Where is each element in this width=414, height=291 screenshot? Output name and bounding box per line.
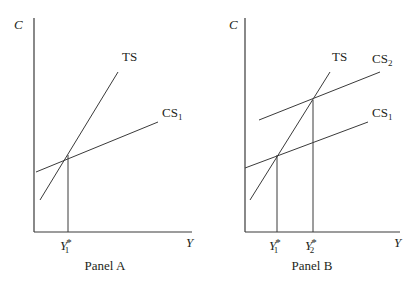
y-axis-label: C bbox=[229, 18, 238, 31]
panel-b: C Y TS CS2 CS1 Y*1 Y*2 Panel B bbox=[210, 0, 414, 291]
curve-label-ts: TS bbox=[332, 50, 347, 63]
curve-label-cs1-subscript: 1 bbox=[178, 112, 183, 122]
curve-label-cs2-subscript: 2 bbox=[388, 58, 393, 68]
curve-label-cs2-text: CS bbox=[372, 51, 388, 66]
curve-label-cs1-text: CS bbox=[162, 105, 178, 120]
curve-cs1 bbox=[36, 122, 158, 172]
tick-label-y1-subscript: 1 bbox=[274, 245, 279, 255]
y-axis-label: C bbox=[14, 18, 23, 31]
panel-a-caption: Panel A bbox=[0, 259, 210, 272]
economics-figure: C Y TS CS1 Y*1 Panel A C Y TS CS2 bbox=[0, 0, 414, 291]
curve-ts bbox=[250, 72, 330, 200]
curve-label-cs1: CS1 bbox=[162, 106, 182, 119]
curve-label-cs2: CS2 bbox=[372, 52, 392, 65]
curve-label-cs1: CS1 bbox=[372, 106, 392, 119]
curve-ts bbox=[40, 72, 118, 200]
tick-label-y1: Y*1 bbox=[60, 236, 77, 252]
tick-label-y2: Y*2 bbox=[305, 236, 322, 252]
panel-a-plot bbox=[0, 0, 210, 291]
panel-b-caption: Panel B bbox=[210, 259, 414, 272]
tick-label-y2-subscript: 2 bbox=[310, 245, 315, 255]
tick-label-y1-subscript: 1 bbox=[65, 245, 70, 255]
curve-label-ts: TS bbox=[122, 50, 137, 63]
panel-a: C Y TS CS1 Y*1 Panel A bbox=[0, 0, 210, 291]
curve-cs1 bbox=[245, 122, 368, 168]
curve-label-cs1-subscript: 1 bbox=[388, 112, 393, 122]
curve-cs2 bbox=[259, 72, 380, 120]
x-axis-label: Y bbox=[394, 236, 401, 249]
tick-label-y1: Y*1 bbox=[269, 236, 286, 252]
curve-label-cs1-text: CS bbox=[372, 105, 388, 120]
x-axis-label: Y bbox=[186, 236, 193, 249]
